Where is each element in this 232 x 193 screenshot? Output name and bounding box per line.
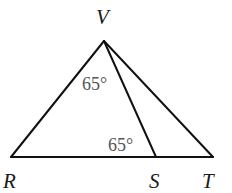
triangle-diagram: V R S T 65° 65° — [0, 0, 232, 193]
angle-label-v: 65° — [82, 74, 107, 94]
segment-VR — [11, 41, 104, 157]
vertex-label-t: T — [202, 169, 215, 193]
vertex-label-v: V — [96, 5, 111, 29]
vertex-label-r: R — [2, 169, 16, 193]
vertex-label-s: S — [149, 169, 160, 193]
angle-label-s: 65° — [108, 135, 133, 155]
